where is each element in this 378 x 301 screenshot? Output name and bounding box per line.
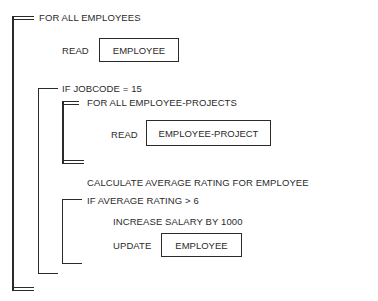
read-employee-keyword: READ	[62, 45, 89, 56]
outer-loop-label: FOR ALL EMPLOYEES	[39, 12, 141, 23]
employee-entity-box: EMPLOYEE	[99, 38, 179, 62]
update-employee-entity-label: EMPLOYEE	[175, 240, 227, 251]
read-employee-project-keyword: READ	[111, 129, 138, 140]
employee-entity-label: EMPLOYEE	[113, 45, 165, 56]
update-employee-entity-box: EMPLOYEE	[161, 233, 242, 257]
employee-project-entity-box: EMPLOYEE-PROJECT	[146, 120, 271, 146]
calculate-step: CALCULATE AVERAGE RATING FOR EMPLOYEE	[87, 177, 309, 188]
if-rating-label: IF AVERAGE RATING > 6	[87, 195, 199, 206]
if-jobcode-label: IF JOBCODE = 15	[62, 83, 142, 94]
employee-project-entity-label: EMPLOYEE-PROJECT	[159, 128, 259, 139]
increase-salary-step: INCREASE SALARY BY 1000	[113, 216, 243, 227]
inner-loop-label: FOR ALL EMPLOYEE-PROJECTS	[87, 97, 237, 108]
update-employee-keyword: UPDATE	[113, 240, 151, 251]
